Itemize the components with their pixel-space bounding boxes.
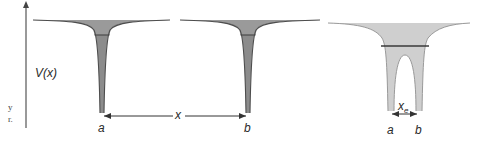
label-a: a <box>98 122 105 134</box>
xe-label-subscript: e <box>404 106 408 115</box>
y-axis-label-text: V(x) <box>35 66 57 80</box>
y-axis <box>23 1 29 128</box>
caption-fragment-1: y <box>8 103 13 112</box>
label-b: b <box>244 122 251 134</box>
y-axis-label: V(x) <box>35 67 57 79</box>
double-well-label-b: b <box>415 124 422 136</box>
y-axis-arrow-icon <box>23 1 29 8</box>
separation-label-x: x <box>175 109 181 121</box>
double-well-label-a: a <box>387 124 394 136</box>
caption-fragment-2: r. <box>8 115 13 124</box>
xe-label: xe <box>398 100 408 115</box>
potential-well-diagram: y r. V(x) a b x xe a b <box>0 0 499 148</box>
double-well <box>328 23 470 111</box>
well-b <box>180 20 320 113</box>
